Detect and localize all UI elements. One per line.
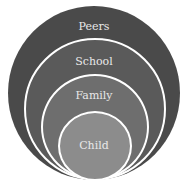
label-family: Family	[0, 89, 188, 102]
label-peers: Peers	[0, 20, 188, 33]
label-child: Child	[0, 139, 188, 152]
label-school: School	[0, 55, 188, 68]
